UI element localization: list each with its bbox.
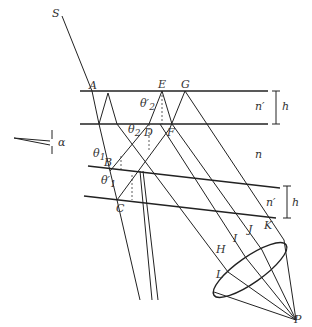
ray-to-P-2 xyxy=(228,272,296,320)
ray-E-to-F xyxy=(162,91,172,124)
ray-up-top-film xyxy=(99,93,108,124)
label-P: P xyxy=(293,313,302,326)
diagram-svg: S A B C D E F G H I J K L P α θ1 θ′1 θ2 … xyxy=(0,0,312,327)
label-theta2: θ2 xyxy=(128,123,141,138)
ray-C-transmitted xyxy=(117,200,140,300)
label-H: H xyxy=(215,243,226,256)
ray-to-P-1 xyxy=(214,292,296,320)
label-theta1-prime: θ′1 xyxy=(101,174,116,189)
label-G: G xyxy=(181,78,190,91)
optics-diagram: S A B C D E F G H I J K L P α θ1 θ′1 θ2 … xyxy=(0,0,312,327)
bottom-film-upper-surface xyxy=(88,166,280,188)
label-D: D xyxy=(143,126,153,139)
label-S: S xyxy=(52,7,60,20)
label-alpha: α xyxy=(58,136,66,149)
label-theta2-prime: θ′2 xyxy=(140,97,155,112)
ray-reflected-out xyxy=(117,124,228,272)
label-E: E xyxy=(157,78,166,91)
ray-to-G xyxy=(170,91,185,128)
label-top-thickness: h xyxy=(282,100,289,113)
label-L: L xyxy=(215,268,223,281)
ray-G-out xyxy=(185,91,284,240)
label-A: A xyxy=(88,79,97,92)
label-top-film-index: n′ xyxy=(255,100,265,113)
bottom-film-lower-surface xyxy=(84,196,276,218)
incident-ray xyxy=(62,16,92,91)
label-theta1: θ1 xyxy=(93,147,105,162)
label-I: I xyxy=(232,232,238,245)
label-J: J xyxy=(246,223,253,236)
ray-down-top-film xyxy=(108,93,117,124)
label-K: K xyxy=(263,219,273,232)
label-bottom-thickness: h xyxy=(292,196,299,209)
label-middle-index: n xyxy=(255,148,262,161)
label-C: C xyxy=(116,202,125,215)
label-bottom-film-index: n′ xyxy=(266,196,276,209)
ray-A-to-top-lower xyxy=(92,91,99,124)
label-F: F xyxy=(166,126,175,139)
